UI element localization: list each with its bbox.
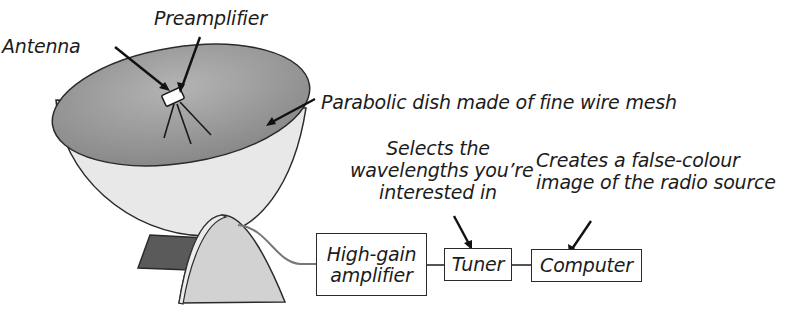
tuner-description-line-2: wavelengths you’re (350, 159, 526, 181)
computer-description-line-2: image of the radio source (536, 171, 776, 193)
tuner-description: Selects the wavelengths you’re intereste… (350, 137, 526, 203)
computer-description-line-1: Creates a false-colour (536, 149, 776, 171)
amplifier-label-line-1: High-gain (327, 244, 417, 265)
tuner-description-line-3: interested in (350, 181, 526, 203)
dish-label: Parabolic dish made of fine wire mesh (321, 91, 677, 113)
preamplifier-label: Preamplifier (154, 7, 267, 29)
antenna-label: Antenna (2, 35, 81, 57)
computer-label: Computer (540, 255, 633, 276)
computer-description: Creates a false-colour image of the radi… (536, 149, 776, 193)
tuner-description-line-1: Selects the (350, 137, 526, 159)
radio-telescope-diagram: Antenna Preamplifier Parabolic dish made… (0, 0, 803, 318)
tuner-label: Tuner (452, 254, 504, 275)
tuner-box: Tuner (444, 248, 512, 281)
high-gain-amplifier-box: High-gain amplifier (316, 233, 427, 296)
computer-box: Computer (531, 249, 642, 282)
amplifier-label-line-2: amplifier (330, 265, 412, 286)
